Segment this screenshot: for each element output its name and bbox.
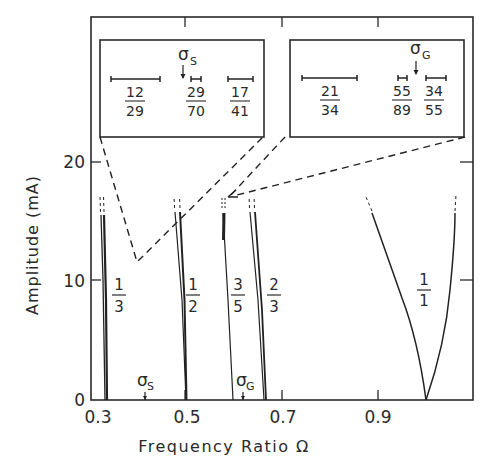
tongue-1-3 xyxy=(100,196,107,400)
svg-text:σ: σ xyxy=(410,38,421,58)
svg-text:3: 3 xyxy=(114,298,124,316)
svg-text:29: 29 xyxy=(187,84,205,100)
zoom-lines xyxy=(100,137,465,262)
sigma-s-marker: σ S xyxy=(137,370,154,400)
svg-text:34: 34 xyxy=(321,102,339,118)
sigma-g-marker: σ G xyxy=(236,370,255,400)
svg-text:70: 70 xyxy=(187,103,205,119)
label-2-3: 2 3 xyxy=(267,276,281,316)
x-axis-label: Frequency Ratio Ω xyxy=(138,437,310,456)
tongue-labels: 1 3 1 2 3 5 2 3 1 1 xyxy=(112,271,431,316)
svg-text:12: 12 xyxy=(126,84,144,100)
x-tick-0.7: 0.7 xyxy=(269,407,296,427)
y-axis-label: Amplitude (mA) xyxy=(23,175,42,315)
label-1-2: 1 2 xyxy=(186,276,200,316)
svg-text:3: 3 xyxy=(269,298,279,316)
svg-text:89: 89 xyxy=(393,102,411,118)
y-tick-0: 0 xyxy=(74,390,85,410)
label-1-3: 1 3 xyxy=(112,276,126,316)
svg-text:σ: σ xyxy=(178,44,189,64)
x-tick-0.5: 0.5 xyxy=(173,407,200,427)
tongue-2-3 xyxy=(249,196,266,400)
label-1-1: 1 1 xyxy=(417,271,431,310)
tongue-1-2 xyxy=(174,196,187,400)
chart: 0 10 20 0.3 0.5 0.7 0.9 Frequency Ratio … xyxy=(0,0,484,472)
y-tick-20: 20 xyxy=(63,152,85,172)
tongue-1-1 xyxy=(366,195,456,400)
svg-text:1: 1 xyxy=(419,292,429,310)
svg-text:G: G xyxy=(422,49,431,62)
svg-text:S: S xyxy=(190,55,197,68)
bottom-ticks xyxy=(185,390,378,400)
x-tick-0.3: 0.3 xyxy=(84,407,111,427)
svg-text:S: S xyxy=(147,380,154,393)
svg-text:1: 1 xyxy=(419,271,429,289)
svg-text:21: 21 xyxy=(321,83,339,99)
svg-text:5: 5 xyxy=(233,298,243,316)
svg-text:29: 29 xyxy=(126,103,144,119)
svg-text:55: 55 xyxy=(393,83,411,99)
svg-text:1: 1 xyxy=(114,276,124,294)
label-3-5: 3 5 xyxy=(231,276,245,316)
inset-right: σ G 21 34 55 89 34 55 xyxy=(290,38,464,137)
svg-text:2: 2 xyxy=(269,276,279,294)
y-tick-10: 10 xyxy=(63,271,85,291)
x-tick-0.9: 0.9 xyxy=(364,407,391,427)
svg-text:3: 3 xyxy=(233,276,243,294)
left-ticks xyxy=(91,162,101,280)
top-ticks xyxy=(185,17,378,27)
svg-text:17: 17 xyxy=(231,84,249,100)
svg-text:55: 55 xyxy=(425,102,443,118)
right-ticks xyxy=(460,162,473,280)
inset-left: σ S 12 29 29 70 17 41 xyxy=(100,40,264,137)
svg-text:1: 1 xyxy=(188,276,198,294)
svg-text:G: G xyxy=(246,380,255,393)
svg-text:2: 2 xyxy=(188,298,198,316)
svg-text:41: 41 xyxy=(231,103,249,119)
svg-text:34: 34 xyxy=(425,83,443,99)
x-tick-labels: 0.3 0.5 0.7 0.9 xyxy=(84,407,391,427)
y-tick-labels: 0 10 20 xyxy=(63,152,85,410)
tongue-3-5 xyxy=(222,196,233,400)
